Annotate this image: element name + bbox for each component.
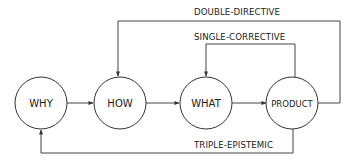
label-single-corrective: SINGLE-CORRECTIVE xyxy=(194,32,285,42)
node-how: HOW xyxy=(94,77,146,129)
loop-single-corrective xyxy=(206,44,295,77)
label-triple-epistemic: TRIPLE-EPISTEMIC xyxy=(193,140,273,150)
node-product: PRODUCT xyxy=(266,77,318,129)
node-why: WHY xyxy=(15,77,67,129)
node-how-label: HOW xyxy=(107,98,132,109)
node-why-label: WHY xyxy=(29,98,53,109)
node-product-label: PRODUCT xyxy=(271,99,313,109)
label-double-directive: DOUBLE-DIRECTIVE xyxy=(194,7,280,17)
node-what-label: WHAT xyxy=(191,98,221,109)
learning-loops-diagram: WHY HOW WHAT PRODUCT DOUBLE-DIRECTIVE SI… xyxy=(0,0,354,165)
node-what: WHAT xyxy=(180,77,232,129)
